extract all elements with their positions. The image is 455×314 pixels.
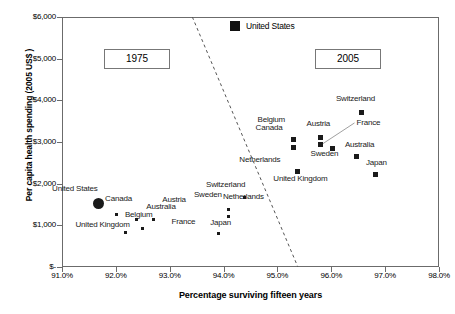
data-point-marker: [291, 137, 296, 142]
data-point-marker: [141, 227, 144, 230]
x-tick-mark: [439, 267, 440, 272]
y-tick-mark: [57, 17, 62, 18]
x-tick-label: 96.0%: [308, 271, 354, 280]
y-tick-label: $2,000: [10, 179, 56, 188]
x-tick-label: 91.0%: [39, 271, 85, 280]
y-axis-title: Per capita health spending (2005 US$ ): [24, 0, 34, 250]
y-tick-label: $6,000: [10, 12, 56, 21]
y-tick-mark: [57, 59, 62, 60]
x-tick-label: 97.0%: [362, 271, 408, 280]
data-point-label: United Kingdom: [76, 220, 130, 229]
data-point-marker: [93, 198, 104, 209]
data-point-marker: [318, 142, 323, 147]
data-point-label: Canada: [256, 123, 283, 132]
x-tick-mark: [385, 267, 386, 272]
data-point-label: France: [172, 217, 196, 226]
data-point-marker: [354, 154, 359, 159]
data-point-label: Australia: [345, 140, 374, 149]
x-tick-label: 95.0%: [254, 271, 300, 280]
x-tick-label: 98.0%: [416, 271, 455, 280]
y-tick-mark: [57, 225, 62, 226]
data-point-label: United States: [52, 184, 97, 193]
data-point-label: Japan: [366, 158, 387, 167]
data-point-marker: [152, 218, 155, 221]
data-point-label: Switzerland: [336, 94, 375, 103]
y-tick-label: $-: [10, 262, 56, 271]
chart-figure: Per capita health spending (2005 US$ ) P…: [0, 0, 455, 314]
data-point-marker: [318, 135, 323, 140]
data-point-marker: [295, 169, 300, 174]
data-point-marker: [227, 208, 230, 211]
x-tick-mark: [277, 267, 278, 272]
data-point-marker: [291, 145, 296, 150]
x-tick-mark: [331, 267, 332, 272]
data-point-label: Sweden: [311, 149, 339, 158]
data-point-label: Switzerland: [206, 180, 245, 189]
data-point-label: Canada: [105, 194, 132, 203]
x-tick-mark: [62, 267, 63, 272]
data-point-label: Austria: [307, 119, 331, 128]
y-tick-label: $4,000: [10, 95, 56, 104]
data-point-marker: [217, 232, 220, 235]
data-point-marker: [115, 213, 118, 216]
y-tick-mark: [57, 100, 62, 101]
data-point-label: France: [357, 118, 381, 127]
data-point-marker: [373, 172, 378, 177]
data-point-label: Netherlands: [239, 155, 280, 164]
x-tick-mark: [224, 267, 225, 272]
legend: United States: [230, 21, 294, 31]
era-label-2005: 2005: [315, 49, 381, 69]
x-tick-mark: [170, 267, 171, 272]
data-point-marker: [359, 110, 364, 115]
era-label-1975: 1975: [104, 49, 170, 69]
y-tick-mark: [57, 142, 62, 143]
data-point-label: Sweden: [194, 190, 222, 199]
y-tick-label: $1,000: [10, 220, 56, 229]
data-point-marker: [124, 231, 127, 234]
x-axis-title: Percentage surviving fifteen years: [62, 290, 439, 300]
data-point-label: United Kingdom: [273, 174, 327, 183]
x-tick-mark: [116, 267, 117, 272]
data-point-label: Belgium: [125, 210, 153, 219]
data-point-label: Netherlands: [223, 192, 264, 201]
data-point-label: Japan: [210, 218, 231, 227]
x-tick-label: 94.0%: [201, 271, 247, 280]
y-tick-label: $5,000: [10, 54, 56, 63]
x-tick-label: 93.0%: [147, 271, 193, 280]
y-tick-label: $3,000: [10, 137, 56, 146]
x-tick-label: 92.0%: [93, 271, 139, 280]
legend-label-united-states: United States: [246, 21, 294, 31]
legend-marker-united-states: [230, 21, 240, 31]
